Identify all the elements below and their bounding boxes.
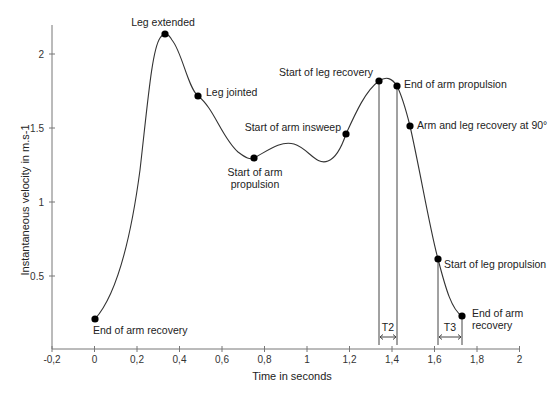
annotation-end-arm-recovery-2-line2: recovery [472, 319, 513, 331]
t3-label: T3 [444, 321, 456, 333]
y-tick-label: 1 [38, 197, 44, 208]
x-tick-label: 0 [92, 354, 98, 365]
x-tick-label: 1,6 [428, 354, 442, 365]
point-end-arm-recovery-2 [458, 312, 465, 319]
x-tick-label: 2 [517, 354, 523, 365]
x-tick-label: -0,2 [43, 354, 61, 365]
annotation-start-leg-recovery: Start of leg recovery [279, 66, 374, 78]
y-tick-label: 1.5 [30, 123, 44, 134]
x-tick-label: 1,2 [343, 354, 357, 365]
point-end-arm-propulsion [393, 82, 400, 89]
annotation-start-leg-propulsion: Start of leg propulsion [444, 258, 546, 270]
annotation-start-arm-insweep: Start of arm insweep [245, 121, 341, 133]
x-axis-title: Time in seconds [252, 370, 332, 382]
annotation-arm-leg-recovery-90: Arm and leg recovery at 90° [417, 119, 547, 131]
point-start-leg-recovery [375, 77, 382, 84]
x-tick-label: 0,4 [173, 354, 187, 365]
x-tick-label: 0,2 [130, 354, 144, 365]
point-arm-leg-recovery-90 [406, 122, 413, 129]
point-leg-extended [161, 30, 168, 37]
x-tick-label: 1,8 [470, 354, 484, 365]
annotation-end-arm-propulsion: End of arm propulsion [404, 78, 507, 90]
x-tick-label: 0,8 [258, 354, 272, 365]
point-start-arm-propulsion [250, 154, 257, 161]
annotation-end-arm-recovery-1: End of arm recovery [93, 324, 188, 336]
x-tick-label: 1 [304, 354, 310, 365]
x-tick-label: 1,4 [385, 354, 399, 365]
point-leg-jointed [194, 92, 201, 99]
y-tick-label: 0.5 [30, 271, 44, 282]
annotation-end-arm-recovery-2-line1: End of arm [472, 307, 524, 319]
annotation-leg-jointed: Leg jointed [206, 86, 258, 98]
velocity-chart: 0.5 1 1.5 2 -0,2 0 0,2 0,4 0,6 0,8 1 1,2… [0, 0, 549, 397]
point-start-leg-propulsion [434, 255, 441, 262]
annotation-leg-extended: Leg extended [131, 16, 195, 28]
point-start-arm-insweep [342, 130, 349, 137]
x-tick-label: 0,6 [215, 354, 229, 365]
point-end-arm-recovery-1 [91, 315, 98, 322]
annotation-start-arm-propulsion-line1: Start of arm [228, 166, 283, 178]
y-tick-label: 2 [38, 49, 44, 60]
interval-arrows [380, 335, 461, 340]
y-axis-title: Instantaneous velocity in m.s-1 [19, 124, 31, 275]
t2-label: T2 [382, 321, 394, 333]
annotation-start-arm-propulsion-line2: propulsion [231, 178, 280, 190]
